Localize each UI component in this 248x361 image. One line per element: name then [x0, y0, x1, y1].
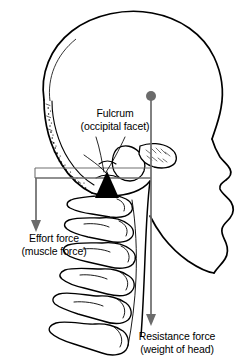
resistance-force-label: Resistance force (weight of head) — [110, 330, 244, 355]
vertebral-canal-line — [128, 200, 136, 346]
vertebra-c6 — [53, 293, 131, 323]
lever-diagram-figure: Fulcrum (occipital facet) Effort force (… — [0, 0, 248, 361]
effort-force-arrow — [31, 178, 41, 232]
fulcrum-label: Fulcrum (occipital facet) — [62, 107, 168, 132]
resistance-force-label-line2: (weight of head) — [110, 343, 244, 356]
fulcrum-label-line1: Fulcrum — [62, 107, 168, 120]
fulcrum-triangle-marker — [95, 171, 119, 198]
vertebral-body-anterior-line — [141, 181, 150, 336]
mandible-jawline — [150, 216, 214, 273]
face-profile-outline — [212, 139, 233, 273]
effort-force-label-line1: Effort force — [0, 232, 108, 245]
fulcrum-label-line2: (occipital facet) — [62, 120, 168, 133]
vertebra-c5 — [60, 268, 134, 295]
anatomy-illustration — [0, 0, 248, 361]
resistance-force-label-line1: Resistance force — [110, 330, 244, 343]
effort-force-label: Effort force (muscle force) — [0, 232, 108, 257]
effort-force-label-line2: (muscle force) — [0, 245, 108, 258]
